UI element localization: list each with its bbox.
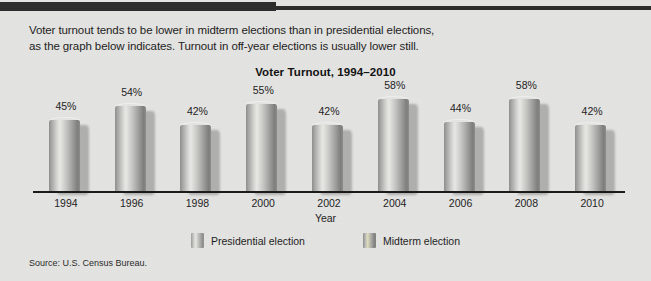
bar-value-label: 58%	[362, 79, 428, 91]
bar-body	[246, 104, 277, 192]
bar-value-label: 42%	[165, 105, 231, 117]
legend-swatch-midterm-icon	[363, 233, 376, 248]
bar-group: 58%	[362, 88, 428, 192]
bar-2006	[444, 122, 478, 192]
chart-plot-area: 45%54%42%55%42%58%44%58%42%	[33, 88, 625, 192]
bar-1996	[115, 106, 149, 192]
bar-value-label: 42%	[559, 105, 625, 117]
bar-body	[444, 122, 475, 192]
tick-label-2004: 2004	[362, 197, 428, 209]
top-rule-line	[0, 6, 651, 10]
bar-body	[49, 120, 80, 192]
bar-top-ellipse	[378, 96, 409, 103]
bar-top-ellipse	[444, 119, 475, 126]
bar-group: 42%	[559, 88, 625, 192]
tick-label-2002: 2002	[296, 197, 362, 209]
legend-item-midterm: Midterm election	[363, 233, 460, 248]
chart-title: Voter Turnout, 1994–2010	[0, 66, 651, 78]
bar-body	[312, 125, 343, 192]
bar-2000	[246, 104, 280, 192]
bar-value-label: 58%	[493, 79, 559, 91]
bar-top-ellipse	[49, 117, 80, 124]
tick-label-1996: 1996	[99, 197, 165, 209]
x-axis-line	[33, 191, 625, 193]
bar-top-ellipse	[509, 96, 540, 103]
bar-group: 55%	[230, 88, 296, 192]
bar-top-ellipse	[115, 103, 146, 110]
tick-label-2008: 2008	[493, 197, 559, 209]
intro-text: Voter turnout tends to be lower in midte…	[29, 22, 589, 54]
tick-label-1994: 1994	[33, 197, 99, 209]
chart-legend: Presidential election Midterm election	[0, 233, 651, 248]
bar-1998	[180, 125, 214, 192]
source-note: Source: U.S. Census Bureau.	[29, 258, 147, 268]
bar-2008	[509, 99, 543, 192]
bar-group: 44%	[428, 88, 494, 192]
tick-label-2000: 2000	[230, 197, 296, 209]
bar-group: 58%	[493, 88, 559, 192]
bar-value-label: 42%	[296, 105, 362, 117]
bar-body	[378, 99, 409, 192]
bar-value-label: 44%	[428, 102, 494, 114]
bar-group: 45%	[33, 88, 99, 192]
bar-top-ellipse	[312, 122, 343, 129]
bar-2002	[312, 125, 346, 192]
bar-top-ellipse	[575, 122, 606, 129]
bar-value-label: 54%	[99, 86, 165, 98]
bar-value-label: 45%	[33, 100, 99, 112]
intro-line-1: Voter turnout tends to be lower in midte…	[29, 22, 589, 38]
tick-label-2010: 2010	[559, 197, 625, 209]
bar-body	[509, 99, 540, 192]
bar-2004	[378, 99, 412, 192]
bar-group: 42%	[296, 88, 362, 192]
x-axis-title: Year	[0, 212, 651, 224]
bar-value-label: 55%	[230, 84, 296, 96]
bar-body	[180, 125, 211, 192]
figure-container: Voter turnout tends to be lower in midte…	[0, 0, 651, 281]
bar-2010	[575, 125, 609, 192]
bar-group: 54%	[99, 88, 165, 192]
legend-label-presidential: Presidential election	[211, 235, 305, 247]
intro-line-2: as the graph below indicates. Turnout in…	[29, 38, 589, 54]
bar-top-ellipse	[180, 122, 211, 129]
legend-label-midterm: Midterm election	[383, 235, 460, 247]
bar-top-ellipse	[246, 101, 277, 108]
tick-label-2006: 2006	[428, 197, 494, 209]
bar-body	[115, 106, 146, 192]
bar-group: 42%	[165, 88, 231, 192]
bar-body	[575, 125, 606, 192]
tick-label-1998: 1998	[165, 197, 231, 209]
legend-swatch-presidential-icon	[191, 233, 204, 248]
legend-item-presidential: Presidential election	[191, 233, 305, 248]
bar-1994	[49, 120, 83, 192]
